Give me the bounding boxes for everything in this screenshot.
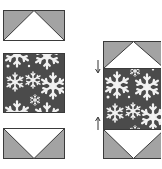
flying-geese-bottom-right [104,130,162,159]
snowflake-rectangle-left [4,54,65,113]
right-column-diagram [103,41,161,159]
arrow-down-icon [94,60,102,74]
left-column-diagram [3,10,65,159]
flying-geese-bottom-left [4,129,65,159]
flying-geese-top-left [4,11,65,41]
arrow-up-icon [94,116,102,130]
snowflake-rectangle-right [104,69,162,130]
flying-geese-top-right [104,42,162,69]
